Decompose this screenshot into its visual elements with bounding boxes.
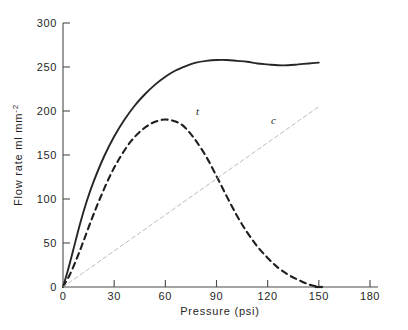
y-tick-label: 150 xyxy=(37,149,57,161)
y-tick-label: 250 xyxy=(37,61,57,73)
x-tick-label: 30 xyxy=(107,290,120,302)
x-tick-label: 120 xyxy=(258,290,278,302)
chart-figure: 050100150200250300 0306090120150180 tc P… xyxy=(0,0,408,330)
y-tick-label: 300 xyxy=(37,17,57,29)
y-axis-title: Flow rate ml mm-2 xyxy=(11,104,24,206)
series-label-c: c xyxy=(271,114,276,126)
chart-background xyxy=(0,0,408,330)
y-tick-label: 200 xyxy=(37,105,57,117)
x-tick-label: 150 xyxy=(309,290,329,302)
x-axis-title: Pressure (psi) xyxy=(180,305,260,317)
x-tick-label: 180 xyxy=(360,290,380,302)
x-tick-label: 60 xyxy=(159,290,172,302)
y-axis-title-group: Flow rate ml mm-2 xyxy=(11,104,24,206)
flow-rate-vs-pressure-chart: 050100150200250300 0306090120150180 tc P… xyxy=(0,0,408,330)
y-tick-label: 50 xyxy=(44,237,57,249)
x-tick-label: 0 xyxy=(60,290,67,302)
y-tick-label: 0 xyxy=(50,281,57,293)
y-tick-label: 100 xyxy=(37,193,57,205)
x-tick-label: 90 xyxy=(210,290,223,302)
